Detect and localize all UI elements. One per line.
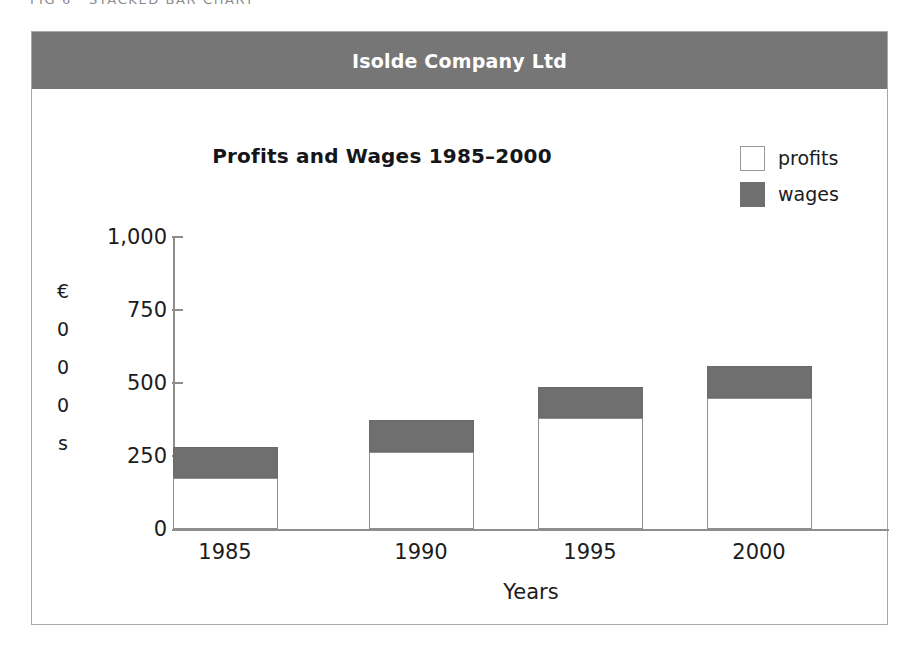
bar-2000-wages [707, 366, 812, 398]
y-axis-title-char-0: € [48, 272, 78, 310]
y-tick-label-1000: 1,000 [77, 225, 167, 249]
y-axis-title-char-3: 0 [48, 386, 78, 424]
x-tick-label-1995: 1995 [510, 540, 670, 564]
bar-2000-profits [707, 398, 812, 529]
y-axis-title-char-1: 0 [48, 310, 78, 348]
x-axis-title: Years [173, 580, 889, 604]
figure-frame: Isolde Company Ltd Profits and Wages 198… [31, 31, 888, 625]
x-tick-label-1985: 1985 [145, 540, 305, 564]
x-tick-label-1990: 1990 [341, 540, 501, 564]
y-tick-label-0: 0 [77, 517, 167, 541]
x-axis-line [173, 529, 889, 531]
bar-1990-profits [369, 452, 474, 529]
bar-1985-profits [173, 478, 278, 529]
bar-1985-wages [173, 447, 278, 478]
y-tick-label-500: 500 [77, 371, 167, 395]
y-axis-title-char-2: 0 [48, 348, 78, 386]
bar-1990-wages [369, 420, 474, 452]
plot-area: € 0 0 0 s 1,000 750 500 250 0 [32, 32, 887, 624]
y-axis-title: € 0 0 0 s [48, 272, 78, 462]
y-axis-title-char-4: s [48, 424, 78, 462]
bar-1995-profits [538, 418, 643, 529]
figure-caption: FIG 6 STACKED BAR CHART [30, 0, 255, 7]
y-tick-label-250: 250 [77, 444, 167, 468]
y-tick-label-750: 750 [77, 298, 167, 322]
bar-1995-wages [538, 387, 643, 418]
x-tick-label-2000: 2000 [679, 540, 839, 564]
